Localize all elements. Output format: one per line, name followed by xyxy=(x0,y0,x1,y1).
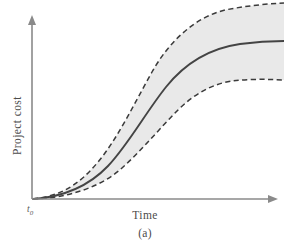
x-axis-label: Time xyxy=(132,209,157,221)
y-axis-label: Project cost xyxy=(11,96,24,155)
origin-time-label: t0 xyxy=(27,204,34,217)
project-cost-uncertainty-chart: Project cost Time t0 (a) xyxy=(0,0,284,248)
uncertainty-band-fill xyxy=(33,3,284,199)
x-axis-arrowhead xyxy=(268,195,278,203)
origin-time-subscript: 0 xyxy=(30,209,34,217)
figure-container: Project cost Time t0 (a) xyxy=(0,0,284,248)
y-axis-arrowhead xyxy=(28,15,36,25)
figure-caption: (a) xyxy=(138,227,152,240)
